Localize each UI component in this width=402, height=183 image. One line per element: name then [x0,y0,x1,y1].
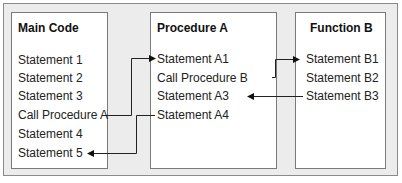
connector-arrows [0,0,402,183]
